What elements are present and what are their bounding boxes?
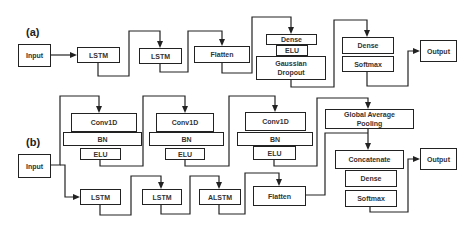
a-dense2-node: Dense <box>342 37 394 54</box>
arrowhead <box>96 106 102 113</box>
b-output-node: Output <box>420 148 457 170</box>
b-conv1-node: Conv1D <box>71 113 137 132</box>
arrowhead <box>276 179 282 186</box>
panel-a-label: (a) <box>26 26 39 38</box>
b-bn1-node: BN <box>63 132 142 146</box>
a-elu-node: ELU <box>276 45 308 56</box>
b-input-node: Input <box>18 154 51 178</box>
a-gaussian-dropout-node: Gaussian Dropout <box>256 56 326 80</box>
a-output-node: Output <box>420 40 457 62</box>
arrowhead <box>70 52 77 58</box>
arrowhead <box>158 182 164 189</box>
b-alstm-node: ALSTM <box>199 189 241 205</box>
b-dense-node: Dense <box>345 170 397 187</box>
arrowhead <box>73 194 80 200</box>
b-bn3-node: BN <box>237 132 313 146</box>
b-gap-node: Global Average Pooling <box>325 109 414 129</box>
b-elu1-node: ELU <box>80 148 121 160</box>
arrowhead <box>364 30 370 37</box>
arrowhead <box>413 156 420 162</box>
b-elu3-node: ELU <box>253 146 296 160</box>
a-input-node: Input <box>18 44 51 67</box>
b-conv2-node: Conv1D <box>156 113 214 132</box>
panel-b-label: (b) <box>26 136 40 148</box>
arrowhead <box>272 105 278 112</box>
b-conv3-node: Conv1D <box>245 112 306 131</box>
edge-b-input-lstm1 <box>60 165 75 197</box>
arrowhead <box>365 143 371 150</box>
a-lstm1-node: LSTM <box>77 47 120 63</box>
arrowhead <box>216 182 222 189</box>
b-softmax-node: Softmax <box>345 190 397 207</box>
arrowhead <box>219 39 225 46</box>
b-bn2-node: BN <box>149 132 224 146</box>
arrowhead <box>413 48 420 54</box>
b-lstm1-node: LSTM <box>80 189 121 205</box>
a-dense1-node: Dense <box>266 34 317 45</box>
b-lstm2-node: LSTM <box>142 189 182 205</box>
a-softmax-node: Softmax <box>342 56 394 72</box>
b-flatten-node: Flatten <box>253 186 306 206</box>
a-lstm2-node: LSTM <box>139 48 182 64</box>
arrowhead <box>288 27 294 34</box>
b-concatenate-node: Concatenate <box>335 150 404 169</box>
a-flatten-node: Flatten <box>194 46 250 63</box>
arrowhead <box>157 41 163 48</box>
arrowhead <box>182 106 188 113</box>
b-elu2-node: ELU <box>165 148 205 160</box>
arrowhead <box>365 102 371 109</box>
